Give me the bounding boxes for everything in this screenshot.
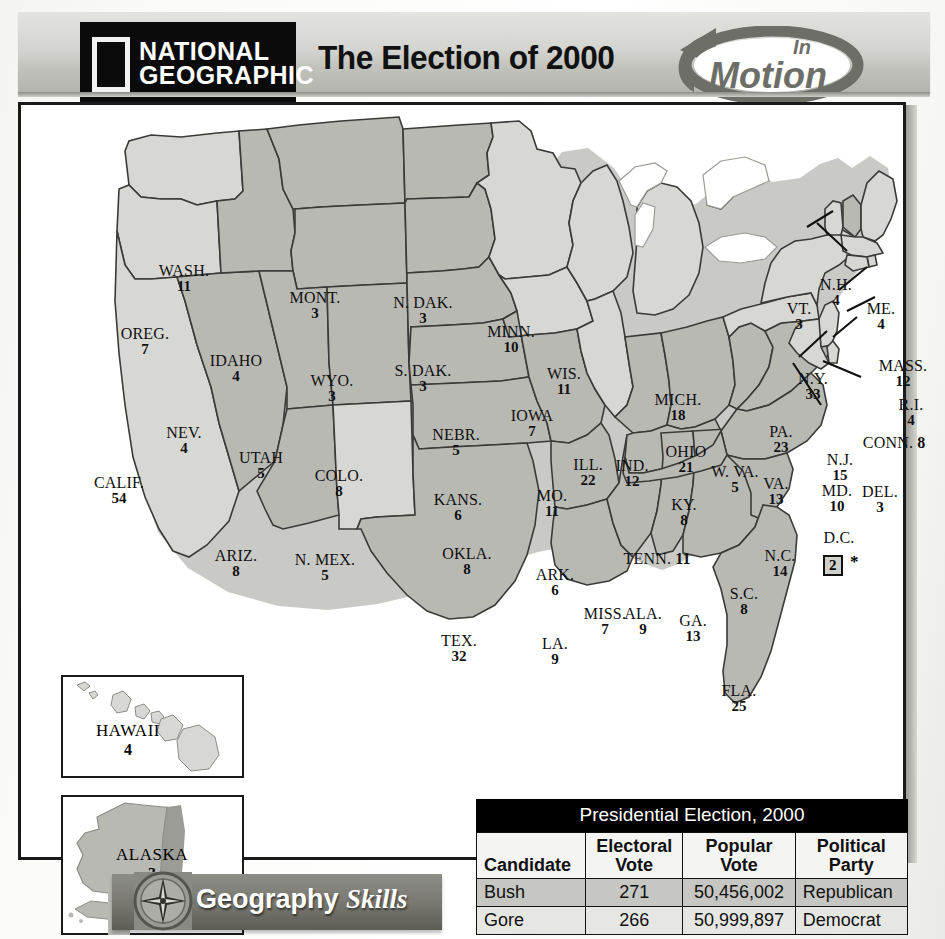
state-mt: [267, 117, 405, 209]
ng-yellow-rectangle-icon: [92, 37, 130, 92]
table-row: Bush 271 50,456,002 Republican: [477, 879, 908, 907]
cell-party: Republican: [795, 879, 907, 907]
page-title: The Election of 2000: [318, 38, 614, 77]
badge-motion-text: Motion: [709, 55, 827, 96]
table-row: Gore 266 50,999,897 Democrat: [477, 907, 908, 935]
alaska-name: ALASKA: [97, 845, 207, 865]
hawaii-name: HAWAII: [73, 721, 183, 741]
cell-candidate: Gore: [477, 907, 586, 935]
state-mn: [477, 121, 581, 279]
cell-electoral: 266: [586, 907, 683, 935]
col-electoral-vote: Electoral Vote: [586, 833, 683, 879]
cell-party: Democrat: [795, 907, 907, 935]
frame-shadow: [906, 105, 917, 863]
col-political-party: Political Party: [795, 833, 907, 879]
footer-word-skills: Skills: [346, 884, 408, 914]
col-candidate: Candidate: [477, 833, 586, 879]
state-nm: [333, 401, 415, 529]
national-geographic-logo: NATIONAL GEOGRAPHIC: [80, 22, 296, 106]
header-bar: NATIONAL GEOGRAPHIC The Election of 2000…: [18, 12, 930, 92]
dc-asterisk: *: [850, 552, 859, 572]
footer-word-geography: Geography: [196, 884, 339, 914]
hawaii-label: HAWAII 4: [73, 721, 183, 759]
dc-votes: 2: [829, 557, 837, 573]
cell-electoral: 271: [586, 879, 683, 907]
state-wa: [125, 131, 243, 205]
hawaii-inset[interactable]: HAWAII 4: [61, 675, 244, 778]
footer-title: Geography Skills: [196, 884, 408, 915]
election-results-table-wrapper: Presidential Election, 2000 Candidate El…: [476, 799, 908, 935]
state-wy: [291, 203, 407, 289]
cell-popular: 50,999,897: [683, 907, 795, 935]
compass-icon: [128, 866, 198, 936]
cell-candidate: Bush: [477, 879, 586, 907]
cell-popular: 50,456,002: [683, 879, 795, 907]
ng-wordmark: NATIONAL GEOGRAPHIC: [139, 40, 314, 88]
hawaii-votes: 4: [73, 741, 183, 759]
dc-electoral-box: 2: [823, 555, 843, 576]
map-frame: .b{fill:#b9b9b4;stroke:#3a3a38;stroke-wi…: [18, 102, 906, 860]
ng-logo-line2: GEOGRAPHIC: [139, 64, 314, 88]
election-results-table: Presidential Election, 2000 Candidate El…: [476, 799, 908, 935]
col-popular-vote: Popular Vote: [683, 833, 795, 879]
table-header-row: Candidate Electoral Vote Popular Vote Po…: [477, 833, 908, 879]
state-vt: [825, 201, 843, 235]
in-motion-badge[interactable]: In Motion: [650, 26, 868, 104]
state-co: [327, 283, 411, 405]
state-de: [827, 341, 839, 363]
state-ok: [411, 377, 551, 449]
table-caption: Presidential Election, 2000: [476, 799, 908, 832]
